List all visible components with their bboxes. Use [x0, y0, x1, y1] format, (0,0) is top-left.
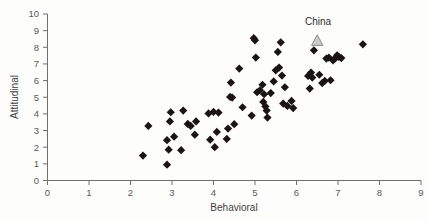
- y-axis-title: Attitudinal: [9, 75, 20, 119]
- data-point-diamond: [192, 117, 200, 125]
- x-tick-label: 6: [294, 187, 299, 198]
- y-tick-label: 0: [34, 175, 39, 186]
- data-point-diamond: [170, 133, 178, 141]
- data-point-diamond: [270, 77, 278, 85]
- data-point-diamond: [267, 89, 275, 97]
- highlight-markers-group: [312, 35, 323, 46]
- data-point-diamond: [227, 79, 235, 87]
- x-tick-label: 4: [211, 187, 216, 198]
- y-axis-group: 012345678910: [28, 8, 47, 186]
- data-point-diamond: [281, 83, 289, 91]
- y-tick-label: 5: [34, 92, 39, 103]
- x-axis-title: Behavioral: [210, 202, 257, 213]
- x-tick-label: 5: [252, 187, 257, 198]
- y-tick-label: 4: [34, 108, 39, 119]
- data-point-diamond: [144, 122, 152, 130]
- x-tick-label: 3: [169, 187, 174, 198]
- x-tick-label: 9: [418, 187, 423, 198]
- y-tick-label: 2: [34, 142, 39, 153]
- x-tick-label: 8: [377, 187, 382, 198]
- scatter-plot-figure: 012345678910 0123456789 China Behavioral…: [0, 0, 429, 222]
- data-point-diamond: [214, 108, 222, 116]
- x-tick-label: 2: [128, 187, 133, 198]
- data-point-diamond: [191, 131, 199, 139]
- data-point-diamond: [278, 72, 286, 80]
- plot-canvas: 012345678910 0123456789 China Behavioral…: [0, 0, 429, 222]
- data-point-diamond: [206, 136, 214, 144]
- data-point-diamond: [306, 84, 314, 92]
- data-point-diamond: [163, 161, 171, 169]
- data-point-diamond: [165, 146, 173, 154]
- y-tick-label: 10: [28, 8, 39, 19]
- x-tick-label: 1: [86, 187, 91, 198]
- data-point-diamond: [167, 108, 175, 116]
- x-tick-label: 7: [335, 187, 340, 198]
- data-point-diamond: [166, 117, 174, 125]
- data-point-diamond: [277, 38, 285, 46]
- data-point-diamond: [177, 146, 185, 154]
- x-axis-group: 0123456789: [45, 181, 424, 199]
- data-point-diamond: [315, 71, 323, 79]
- data-point-diamond: [326, 76, 334, 84]
- data-point-diamond: [238, 103, 246, 111]
- x-tick-label: 0: [45, 187, 50, 198]
- data-point-diamond: [224, 124, 232, 132]
- y-tick-label: 3: [34, 125, 39, 136]
- data-point-diamond: [235, 65, 243, 73]
- annotation-china-label: China: [305, 16, 332, 27]
- data-point-diamond: [310, 46, 318, 54]
- data-point-diamond: [223, 135, 231, 143]
- y-tick-label: 8: [34, 42, 39, 53]
- y-tick-label: 9: [34, 25, 39, 36]
- y-tick-label: 1: [34, 158, 39, 169]
- data-markers-group: [139, 34, 367, 169]
- data-point-diamond: [263, 113, 271, 121]
- data-point-diamond: [211, 143, 219, 151]
- data-point-diamond: [252, 54, 260, 62]
- y-tick-label: 7: [34, 58, 39, 69]
- data-point-diamond: [179, 106, 187, 114]
- data-point-diamond: [274, 48, 282, 56]
- data-point-china-triangle: [312, 35, 323, 46]
- annotations-group: China: [305, 16, 332, 27]
- y-tick-label: 6: [34, 75, 39, 86]
- data-point-diamond: [248, 111, 256, 119]
- data-point-diamond: [213, 128, 221, 136]
- data-point-diamond: [139, 151, 147, 159]
- data-point-diamond: [230, 120, 238, 128]
- data-point-diamond: [359, 40, 367, 48]
- data-point-diamond: [163, 136, 171, 144]
